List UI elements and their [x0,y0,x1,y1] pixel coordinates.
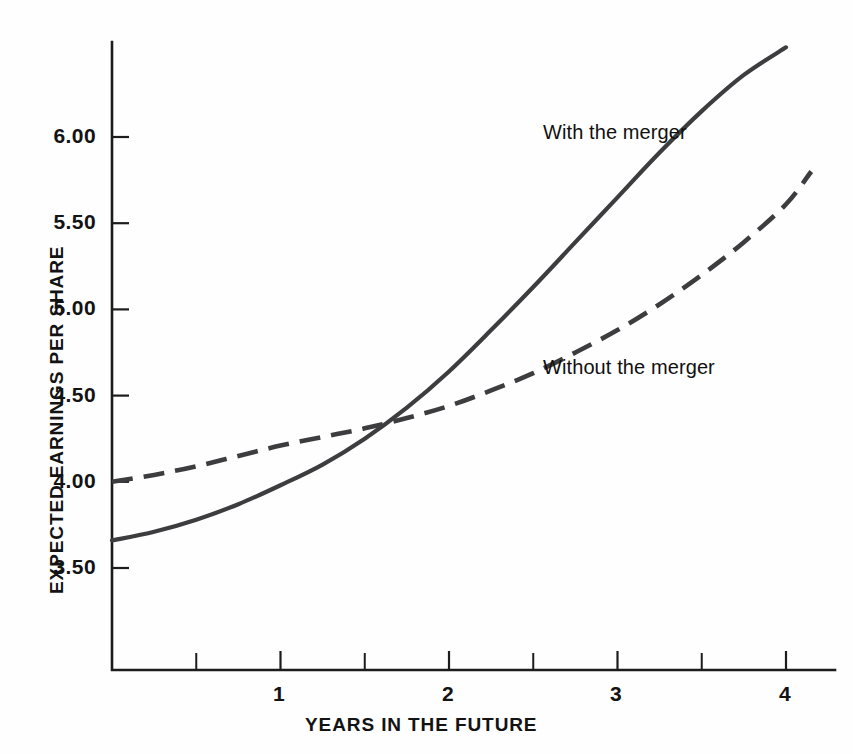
annotation-without-merger: Without the merger [543,356,715,379]
x-tick-label-4: 4 [765,682,805,706]
series-line-without-merger [112,171,811,481]
y-tick-label-550: 5.50 [18,210,96,234]
data-series-group [112,47,811,540]
x-tick-label-3: 3 [596,682,636,706]
axes-group [112,42,835,670]
axis-frame [112,42,835,670]
x-tick-label-1: 1 [259,682,299,706]
x-axis-title: YEARS IN THE FUTURE [305,714,537,736]
x-tick-label-2: 2 [428,682,468,706]
chart-figure: 6.00 5.50 5.00 4.50 4.00 3.50 1 2 3 4 EX… [0,0,853,754]
y-axis-title: EXPECTED EARNINGS PER SHARE [46,246,68,594]
tick-marks-group [112,137,786,670]
chart-plot-area [0,0,853,754]
annotation-with-merger: With the merger [543,121,687,144]
y-tick-label-600: 6.00 [18,124,96,148]
